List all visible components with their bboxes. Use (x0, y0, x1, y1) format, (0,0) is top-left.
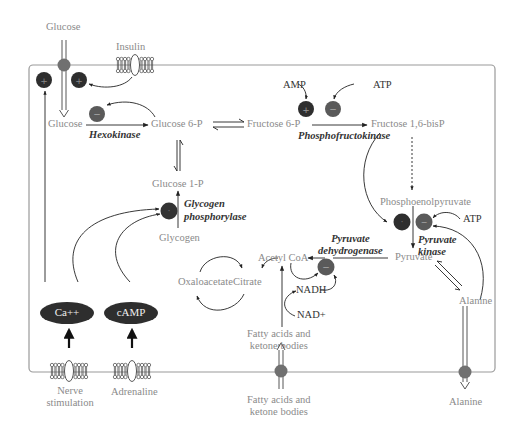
hexokinase-label: Hexokinase (89, 129, 140, 141)
glycogen-phosphorylase-label: Glycogen phosphorylase (184, 198, 246, 223)
acetyl-coa-label: Acetyl CoA (258, 252, 308, 264)
pfk-label: Phosphofructokinase (298, 130, 390, 142)
glycogen-label: Glycogen (159, 232, 200, 244)
calcium-label: Ca++ (44, 306, 90, 318)
adrenaline-label: Adrenaline (111, 386, 158, 398)
svg-text:·: · (401, 218, 404, 227)
alanine-label: Alanine (459, 295, 492, 307)
glucose-transporter-icon (58, 59, 71, 72)
insulin-receptor-icon (116, 55, 153, 76)
glucose-outside-label: Glucose (46, 21, 80, 33)
fatty-acid-transporter-icon (275, 365, 288, 378)
pdh-label: Pyruvate dehydrogenase (318, 233, 383, 256)
atp-pk-label: ATP (463, 213, 482, 225)
alanine-outside-label: Alanine (449, 396, 482, 408)
svg-text:−: − (322, 262, 330, 272)
glucose-label: Glucose (48, 118, 82, 130)
oxaloacetate-label: Oxaloacetate (178, 276, 233, 288)
atp-pfk-label: ATP (373, 79, 392, 91)
svg-text:−: − (421, 218, 428, 227)
pep-label: Phosphoenolpyruvate (380, 196, 471, 208)
svg-text:·: · (168, 207, 171, 216)
fatty-acids-inside-label: Fatty acids and ketone bodies (247, 328, 311, 352)
amp-label: AMP (283, 79, 306, 91)
svg-text:−: − (329, 104, 337, 114)
citrate-label: Citrate (233, 276, 262, 288)
svg-text:+: + (40, 76, 48, 86)
nerve-stimulation-label: Nerve stimulation (44, 385, 96, 409)
fructose-6p-label: Fructose 6-P (247, 118, 300, 130)
metabolic-diagram: + + − + − · · − − (0, 0, 518, 430)
glucose-transport-arrow (60, 40, 69, 117)
alanine-transporter-icon (459, 366, 472, 379)
glucose-1p-label: Glucose 1-P (152, 178, 204, 190)
svg-text:+: + (302, 105, 310, 115)
camp-label: cAMP (108, 306, 154, 318)
nad-label: NAD+ (297, 309, 326, 321)
fructose-16bisp-label: Fructose 1,6-bisP (371, 118, 445, 130)
diagram-canvas: + + − + − · · − − (0, 0, 518, 430)
adrenaline-receptor-icon (113, 361, 150, 382)
svg-text:−: − (93, 109, 101, 119)
glucose-6p-label: Glucose 6-P (151, 118, 203, 130)
nadh-label: NADH (296, 284, 326, 296)
svg-text:+: + (75, 76, 83, 86)
nerve-receptor-icon (50, 361, 87, 382)
fatty-acids-outside-label: Fatty acids and ketone bodies (247, 394, 311, 418)
pyruvate-label: Pyruvate (395, 251, 432, 263)
insulin-label: Insulin (116, 41, 145, 53)
